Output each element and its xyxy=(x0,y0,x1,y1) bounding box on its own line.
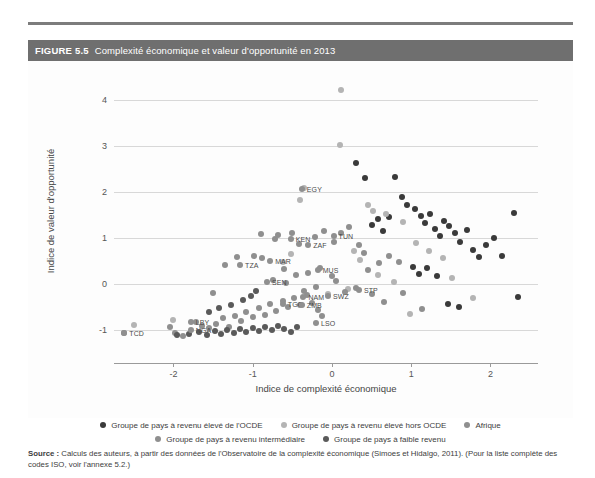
data-point-label: SWZ xyxy=(333,293,349,300)
data-point-label: EGY xyxy=(307,186,322,193)
data-point xyxy=(422,220,428,226)
data-point xyxy=(404,202,410,208)
x-tick-label: 2 xyxy=(488,369,493,379)
data-point xyxy=(375,272,381,278)
data-point xyxy=(313,284,319,290)
figure-header: FIGURE 5.5 Complexité économique et vale… xyxy=(28,40,573,61)
data-point-labeled xyxy=(264,279,270,285)
x-tick-label: 1 xyxy=(409,369,414,379)
data-point-labeled xyxy=(188,327,194,333)
data-point xyxy=(365,267,371,273)
figure-title: Complexité économique et valeur d'opport… xyxy=(95,45,336,56)
legend-item[interactable]: Afrique xyxy=(464,421,500,430)
data-point xyxy=(180,333,186,339)
data-point xyxy=(424,265,430,271)
data-point-labeled xyxy=(313,320,319,326)
data-point xyxy=(228,302,234,308)
data-point xyxy=(237,326,243,332)
data-point xyxy=(337,142,343,148)
data-point xyxy=(232,313,238,319)
data-point xyxy=(416,271,422,277)
data-point xyxy=(353,160,359,166)
plot-area: -101234-2-1012TCDLBYNGATZAMARSENKENZAFEG… xyxy=(114,79,538,351)
data-point xyxy=(174,332,180,338)
data-point-labeled xyxy=(288,236,294,242)
data-point xyxy=(213,321,219,327)
data-point xyxy=(427,211,433,217)
data-point xyxy=(288,329,294,335)
y-axis-label: Indice de valeur d'opportunité xyxy=(45,149,56,273)
top-rule xyxy=(28,22,573,25)
data-point xyxy=(222,262,228,268)
data-point-label: NGA xyxy=(196,327,211,334)
data-point-labeled xyxy=(325,293,331,299)
data-point xyxy=(251,253,257,259)
figure-number: FIGURE 5.5 xyxy=(35,45,89,56)
data-point xyxy=(452,230,458,236)
data-point xyxy=(231,330,237,336)
data-point xyxy=(256,305,262,311)
data-point xyxy=(210,290,216,296)
legend-label: Groupe de pays à revenu élevé de l'OCDE xyxy=(111,421,262,430)
legend-item[interactable]: Groupe de pays à revenu élevé de l'OCDE xyxy=(100,421,262,430)
legend-swatch-icon xyxy=(464,422,470,428)
legend-label: Groupe de pays à faible revenu xyxy=(334,435,446,444)
y-gridline xyxy=(114,192,538,193)
legend-label: Afrique xyxy=(475,421,500,430)
data-point xyxy=(515,294,521,300)
data-point xyxy=(440,255,446,261)
legend-swatch-icon xyxy=(281,422,287,428)
data-point-label: MUS xyxy=(323,267,339,274)
y-tick-label: 3 xyxy=(102,141,107,151)
data-point xyxy=(449,275,455,281)
data-point xyxy=(273,308,279,314)
data-point xyxy=(262,324,268,330)
data-point xyxy=(262,312,268,318)
data-point xyxy=(351,248,357,254)
legend-item[interactable]: Groupe de pays à revenu intermédiaire xyxy=(155,435,305,444)
data-point xyxy=(356,242,362,248)
x-tick-label: -2 xyxy=(169,369,177,379)
data-point xyxy=(346,224,352,230)
data-point-label: TZA xyxy=(245,261,259,268)
data-point-label: ZAF xyxy=(313,241,327,248)
source-label: Source : xyxy=(28,449,59,458)
data-point xyxy=(238,318,244,324)
data-point xyxy=(240,297,246,303)
x-tick-mark xyxy=(411,363,412,367)
data-point xyxy=(437,233,443,239)
data-point xyxy=(243,329,249,335)
data-point-labeled xyxy=(331,233,337,239)
data-point xyxy=(410,264,416,270)
data-point xyxy=(297,197,303,203)
legend-item[interactable]: Groupe de pays à faible revenu xyxy=(323,435,446,444)
x-tick-mark xyxy=(490,363,491,367)
data-point xyxy=(305,270,311,276)
data-point xyxy=(281,266,287,272)
data-point xyxy=(216,305,222,311)
data-point xyxy=(212,328,218,334)
data-point xyxy=(392,174,398,180)
y-gridline xyxy=(114,146,538,147)
data-point xyxy=(259,255,265,261)
data-point xyxy=(419,306,425,312)
data-point xyxy=(167,324,173,330)
y-gridline xyxy=(114,100,538,101)
data-point xyxy=(400,290,406,296)
data-point xyxy=(289,230,295,236)
data-point xyxy=(381,299,387,305)
data-point-label: ZMB xyxy=(307,302,322,309)
data-point xyxy=(333,278,339,284)
data-point xyxy=(391,279,397,285)
data-point xyxy=(250,325,256,331)
data-point xyxy=(413,240,419,246)
legend-item[interactable]: Groupe de pays à revenu élevé hors OCDE xyxy=(281,421,447,430)
data-point xyxy=(434,273,440,279)
data-point xyxy=(396,259,402,265)
data-point xyxy=(407,311,413,317)
data-point-labeled xyxy=(300,294,306,300)
data-point xyxy=(362,175,368,181)
scatter-plot: Indice de valeur d'opportunité Indice de… xyxy=(28,61,573,418)
data-point xyxy=(250,314,256,320)
data-point xyxy=(301,288,307,294)
